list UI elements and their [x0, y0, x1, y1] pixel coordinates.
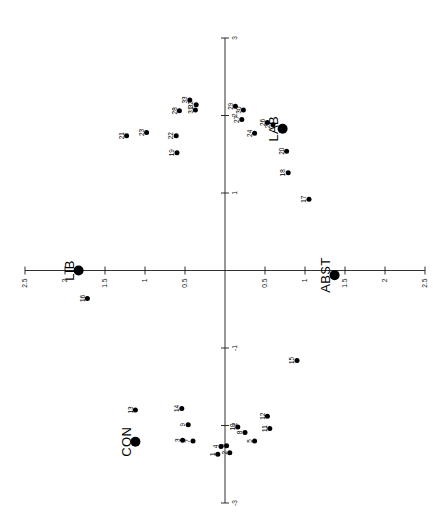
data-point [187, 98, 192, 103]
data-point [227, 450, 232, 455]
data-point [252, 439, 257, 444]
data-point-label: 17 [300, 195, 307, 203]
data-point [239, 117, 244, 122]
data-point-label: 21 [118, 132, 125, 140]
data-point [307, 197, 312, 202]
data-point-label: 14 [173, 404, 180, 412]
data-point-label: 1 [209, 452, 216, 456]
data-point [124, 133, 129, 138]
data-point-label: 28 [171, 107, 178, 115]
data-point-label: 29 [227, 102, 234, 110]
data-point-label: 12 [259, 412, 266, 420]
category-point-label: LAB [266, 116, 281, 141]
data-point-label: 15 [288, 356, 295, 364]
x-tick-label: 0.5 [181, 278, 188, 287]
data-points-group: 1234567891011121314151617181920212223242… [79, 96, 312, 457]
y-tick-label: 3 [231, 36, 238, 40]
data-point-label: 19 [168, 149, 175, 157]
data-point [85, 296, 90, 301]
data-point-label: 7 [184, 439, 191, 443]
axes-group [25, 38, 425, 503]
y-tick-label: -3 [231, 500, 238, 506]
scatter-plot-figure: 2.521.510.50.511.522.5321-1-2-3 12345678… [0, 0, 439, 520]
x-tick-label: 0.5 [261, 278, 268, 287]
category-point-label: ABST [318, 258, 333, 293]
data-point [241, 108, 246, 113]
data-point-label: 20 [278, 147, 285, 155]
data-point [224, 443, 229, 448]
data-point-label: 11 [261, 425, 268, 432]
data-point-label: 18 [279, 169, 286, 177]
data-point [133, 408, 138, 413]
data-point [235, 425, 240, 430]
plot-canvas: 2.521.510.50.511.522.5321-1-2-3 12345678… [0, 0, 439, 520]
category-point-label: LIB [62, 260, 77, 280]
data-point-label: 5 [246, 439, 253, 443]
data-point [179, 406, 184, 411]
data-point [243, 430, 248, 435]
data-point [265, 414, 270, 419]
y-tick-label: 1 [231, 191, 238, 195]
data-point-label: 9 [179, 423, 186, 427]
data-point-label: 2 [221, 450, 228, 454]
x-tick-label: 2.5 [421, 278, 428, 287]
data-point-label: 26 [259, 118, 266, 126]
category-point-label: CON [119, 427, 134, 457]
data-point-label: 3 [174, 438, 181, 442]
data-point [286, 170, 291, 175]
data-point-label: 24 [246, 129, 253, 137]
x-tick-label: 1 [301, 278, 308, 282]
x-tick-label: 2 [381, 278, 388, 282]
data-point-label: 16 [79, 294, 86, 302]
x-tick-label: 1.5 [101, 278, 108, 287]
x-tick-label: 2.5 [21, 278, 28, 287]
data-point [215, 452, 220, 457]
x-tick-label: 1 [141, 278, 148, 282]
data-point-label: 33 [181, 96, 188, 104]
data-point-label: 27 [233, 115, 240, 123]
data-point [284, 149, 289, 154]
data-point-label: 8 [236, 430, 243, 434]
data-point [267, 426, 272, 431]
data-point [174, 133, 179, 138]
data-point [177, 108, 182, 113]
data-point [144, 130, 149, 135]
data-point [186, 422, 191, 427]
data-point [295, 358, 300, 363]
data-point-label: 10 [229, 423, 236, 431]
data-point-label: 30 [235, 106, 242, 114]
data-point [252, 131, 257, 136]
x-tick-label: 1.5 [341, 278, 348, 287]
data-point [194, 102, 199, 107]
data-point [175, 150, 180, 155]
data-point-label: 6 [218, 443, 225, 447]
data-point-label: 22 [167, 132, 174, 140]
data-point-label: 23 [138, 129, 145, 137]
data-point-label: 13 [127, 406, 134, 414]
data-point [191, 439, 196, 444]
y-tick-label: -1 [231, 345, 238, 351]
